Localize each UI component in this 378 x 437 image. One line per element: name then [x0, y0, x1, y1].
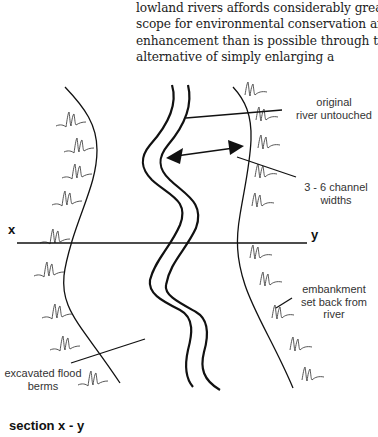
label-original-river: original river untouched: [294, 96, 374, 121]
label-line: river: [296, 308, 372, 321]
leader-embankment: [276, 298, 292, 308]
label-line: widths: [296, 194, 376, 207]
leader-flood-berms: [71, 339, 145, 363]
axis-label-x: x: [8, 222, 15, 237]
label-line: excavated flood: [2, 367, 84, 380]
left-embankment: [64, 87, 120, 383]
label-line: embankment: [296, 283, 372, 296]
leader-channel-widths: [237, 157, 296, 177]
label-embankment: embankment set back from river: [296, 283, 372, 321]
double-arrow-icon: [166, 140, 244, 164]
label-line: 3 - 6 channel: [296, 181, 376, 194]
river-left-bank: [143, 85, 193, 387]
label-flood-berms: excavated flood berms: [2, 367, 84, 392]
label-line: berms: [2, 380, 84, 393]
label-line: original: [294, 96, 374, 109]
label-line: river untouched: [294, 109, 374, 122]
section-title: section x - y: [9, 418, 84, 433]
axis-label-y: y: [311, 227, 318, 242]
label-channel-widths: 3 - 6 channel widths: [296, 181, 376, 206]
label-line: set back from: [296, 296, 372, 309]
leader-original-river: [186, 110, 282, 118]
right-embankment: [233, 87, 293, 388]
